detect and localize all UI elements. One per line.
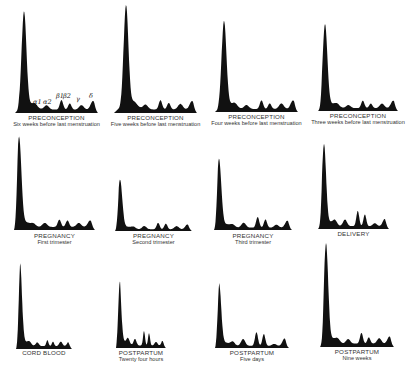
electrophoresis-trace bbox=[0, 0, 414, 379]
cropped-caption-text bbox=[0, 372, 414, 379]
fraction-label: α1 bbox=[33, 98, 42, 106]
panel-title: POSTPARTUM bbox=[277, 348, 414, 355]
electrophoresis-panel: POSTPARTUMNine weeks bbox=[0, 0, 414, 379]
fraction-label: α2 bbox=[43, 98, 52, 106]
electrophoresis-figure: PRECONCEPTIONSix weeks before last menst… bbox=[0, 0, 414, 379]
fraction-label: β2 bbox=[63, 92, 71, 100]
fraction-label: δ bbox=[89, 92, 93, 100]
panel-subtitle: Nine weeks bbox=[277, 355, 414, 361]
protein-curve bbox=[320, 243, 394, 347]
fraction-label: γ bbox=[76, 95, 80, 103]
